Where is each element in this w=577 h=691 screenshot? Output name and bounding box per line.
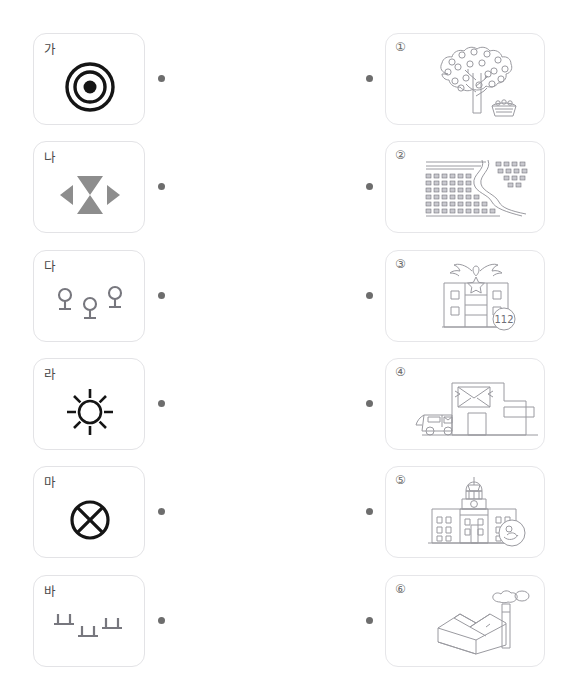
connector-dot-right[interactable] xyxy=(366,183,373,190)
picture-number: ① xyxy=(395,40,406,54)
rice-paddy-rows-with-stream-illustration xyxy=(408,148,544,232)
factory-with-chimney-illustration xyxy=(408,582,544,666)
picture-card-5[interactable]: ⑤ xyxy=(385,466,545,558)
picture-card-4[interactable]: ④ xyxy=(385,358,545,450)
matching-worksheet: 가 ① xyxy=(0,0,577,691)
city-hall-domed-building-illustration xyxy=(408,473,544,557)
connector-dot-right[interactable] xyxy=(366,617,373,624)
picture-number: ② xyxy=(395,148,406,162)
connector-dot-left[interactable] xyxy=(158,292,165,299)
picture-card-2[interactable]: ② xyxy=(385,141,545,233)
symbol-card-na[interactable]: 나 xyxy=(33,141,145,233)
match-row: 바 ⑥ xyxy=(0,575,577,679)
fruit-tree-with-basket-illustration xyxy=(408,40,544,124)
symbol-card-ma[interactable]: 마 xyxy=(33,466,145,558)
police-sign-number: 112 xyxy=(494,314,513,325)
connector-dot-left[interactable] xyxy=(158,183,165,190)
symbol-card-ga[interactable]: 가 xyxy=(33,33,145,125)
connector-dot-left[interactable] xyxy=(158,617,165,624)
police-station-building-illustration: 112 xyxy=(408,257,544,341)
connector-dot-left[interactable] xyxy=(158,75,165,82)
connector-dot-right[interactable] xyxy=(366,400,373,407)
match-row: 마 ⑤ xyxy=(0,466,577,570)
match-row: 다 ③ xyxy=(0,250,577,354)
picture-number: ⑤ xyxy=(395,473,406,487)
picture-card-6[interactable]: ⑥ xyxy=(385,575,545,667)
circle-x-post-office-icon xyxy=(34,483,146,557)
symbol-card-ra[interactable]: 라 xyxy=(33,358,145,450)
factory-bowtie-icon xyxy=(34,158,146,232)
match-row: 나 ② xyxy=(0,141,577,245)
connector-dot-left[interactable] xyxy=(158,508,165,515)
match-row: 가 ① xyxy=(0,33,577,137)
symbol-card-ba[interactable]: 바 xyxy=(33,575,145,667)
orchard-lollipop-trees-icon xyxy=(34,267,146,341)
sunburst-school-icon xyxy=(34,375,146,449)
connector-dot-left[interactable] xyxy=(158,400,165,407)
match-row: 라 ④ xyxy=(0,358,577,462)
post-office-with-truck-illustration xyxy=(408,365,544,449)
connector-dot-right[interactable] xyxy=(366,75,373,82)
connector-dot-right[interactable] xyxy=(366,508,373,515)
clipped-header-text xyxy=(8,0,428,6)
picture-number: ⑥ xyxy=(395,582,406,596)
picture-number: ④ xyxy=(395,365,406,379)
picture-number: ③ xyxy=(395,257,406,271)
picture-card-1[interactable]: ① xyxy=(385,33,545,125)
picture-card-3[interactable]: ③ xyxy=(385,250,545,342)
symbol-card-da[interactable]: 다 xyxy=(33,250,145,342)
connector-dot-right[interactable] xyxy=(366,292,373,299)
concentric-circles-bullseye-icon xyxy=(34,50,146,124)
rice-paddy-field-icon xyxy=(34,592,146,666)
